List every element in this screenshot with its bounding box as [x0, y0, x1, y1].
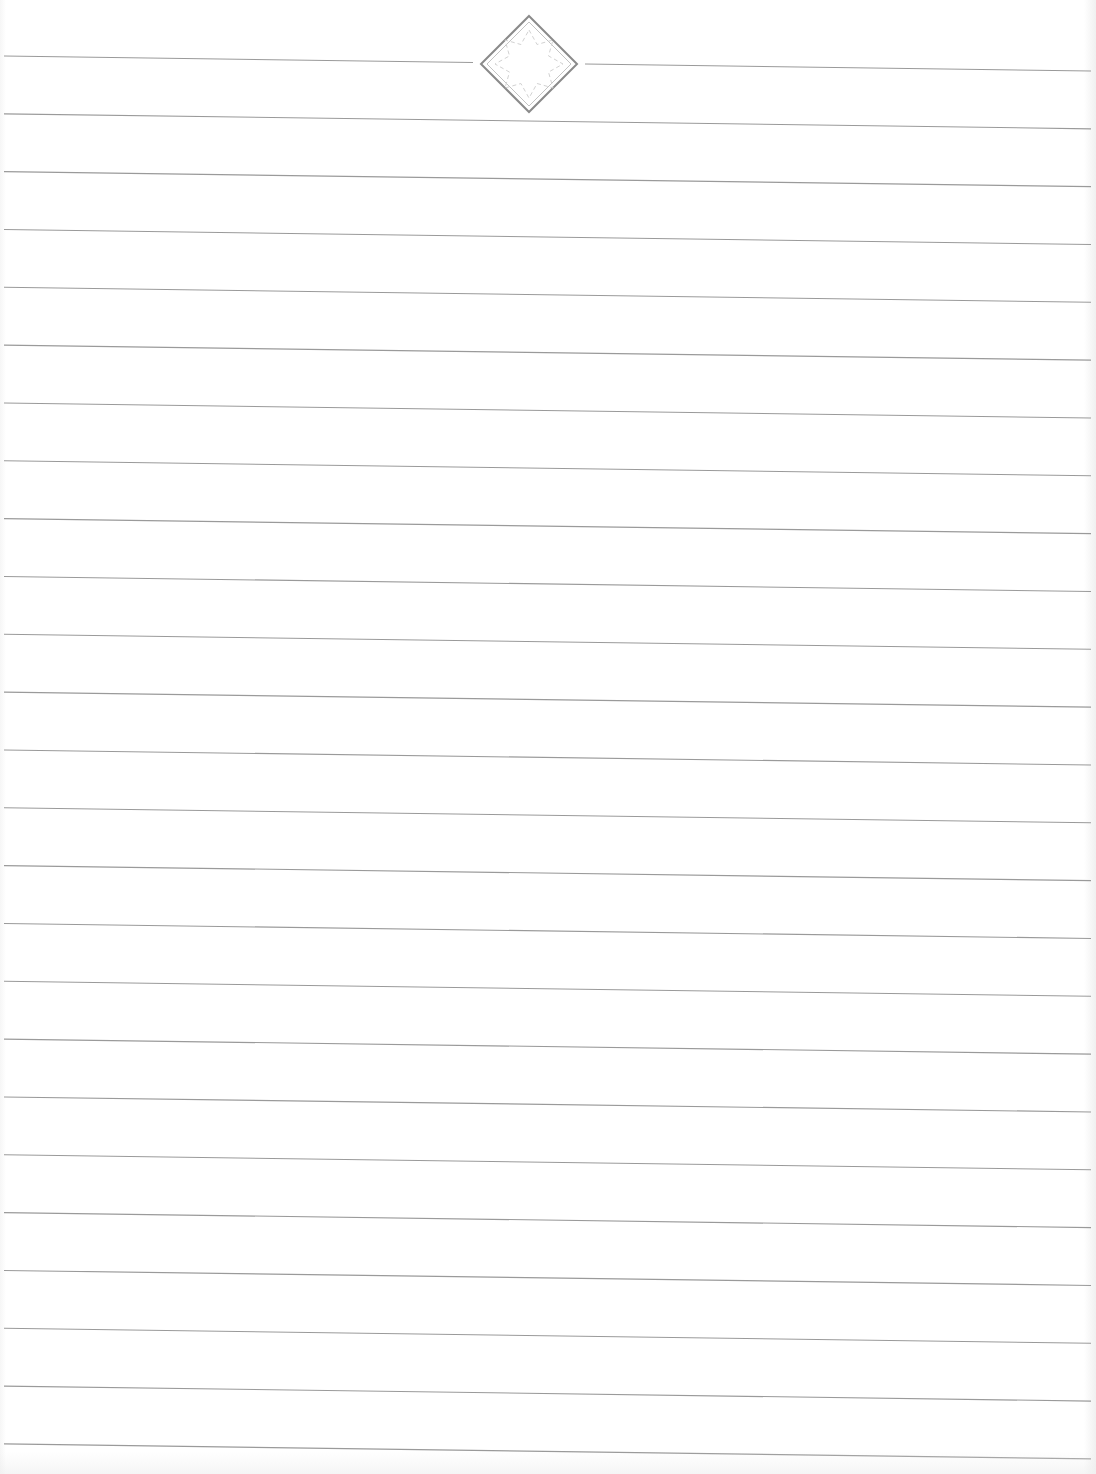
page-bottom-shadow — [0, 1452, 1096, 1474]
inner-diamond-icon — [487, 22, 571, 106]
notebook-page — [0, 0, 1096, 1474]
diamond-star-ornament-icon — [0, 0, 1096, 1474]
